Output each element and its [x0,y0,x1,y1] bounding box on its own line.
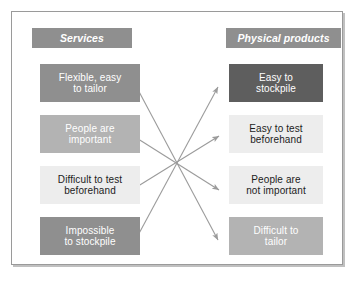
left-item-people-are-important-label: People are important [65,123,114,146]
column-header-physical-products-label: Physical products [237,32,329,44]
left-item-flexible-easy-to-tailor-label: Flexible, easy to tailor [59,72,122,95]
left-item-impossible-to-stockpile: Impossible to stockpile [40,217,140,255]
left-item-difficult-to-test-beforehand: Difficult to test beforehand [40,166,140,204]
left-item-difficult-to-test-beforehand-label: Difficult to test beforehand [58,174,122,197]
right-item-easy-to-stockpile-label: Easy to stockpile [256,72,296,95]
right-item-difficult-to-tailor: Difficult to tailor [229,217,323,255]
right-item-difficult-to-tailor-label: Difficult to tailor [254,225,299,248]
left-item-people-are-important: People are important [40,115,140,153]
column-header-services: Services [32,28,132,48]
right-item-people-are-not-important-label: People are not important [246,174,306,197]
right-item-easy-to-stockpile: Easy to stockpile [229,64,323,102]
left-item-impossible-to-stockpile-label: Impossible to stockpile [64,225,115,248]
right-item-easy-to-test-beforehand-label: Easy to test beforehand [249,123,302,146]
diagram-figure: Services Physical products Flexible, eas… [0,0,358,284]
right-item-people-are-not-important: People are not important [229,166,323,204]
column-header-physical-products: Physical products [226,28,341,48]
right-item-easy-to-test-beforehand: Easy to test beforehand [229,115,323,153]
column-header-services-label: Services [60,32,104,44]
left-item-flexible-easy-to-tailor: Flexible, easy to tailor [40,64,140,102]
